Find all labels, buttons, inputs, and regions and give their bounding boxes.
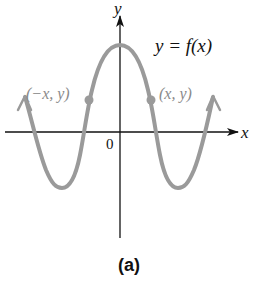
y-axis-label: y: [114, 0, 122, 17]
figure-caption: (a): [118, 256, 140, 274]
origin-label: 0: [106, 137, 114, 152]
point-neg-x: [85, 96, 94, 105]
function-label: y = f(x): [155, 36, 212, 55]
function-curve: [25, 45, 213, 188]
even-function-graph: y x y = f(x) (−x, y) (x, y) 0 (a): [0, 0, 258, 299]
x-axis-label: x: [241, 124, 249, 141]
point-label-pos-x: (x, y): [159, 86, 192, 102]
point-label-neg-x: (−x, y): [26, 86, 70, 102]
point-pos-x: [147, 96, 156, 105]
